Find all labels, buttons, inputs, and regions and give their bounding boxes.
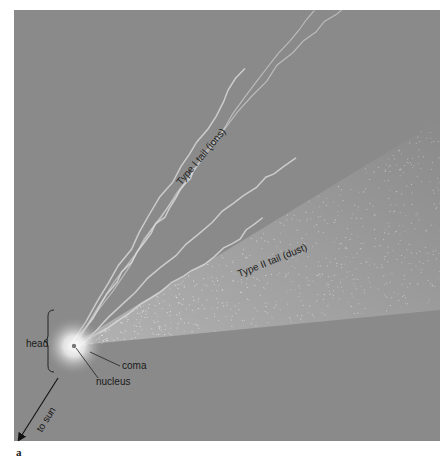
dust-speck — [363, 243, 364, 244]
dust-speck — [257, 311, 258, 312]
dust-speck — [411, 164, 412, 165]
dust-speck — [353, 297, 354, 298]
dust-speck — [355, 268, 356, 269]
dust-speck — [340, 282, 341, 283]
dust-speck — [401, 194, 402, 195]
dust-speck — [299, 293, 300, 294]
dust-speck — [390, 165, 391, 166]
dust-speck — [125, 330, 126, 331]
dust-speck — [346, 276, 347, 277]
dust-speck — [435, 208, 436, 209]
dust-speck — [318, 275, 319, 276]
dust-speck — [352, 214, 353, 215]
dust-speck — [324, 219, 325, 220]
dust-speck — [385, 256, 386, 257]
dust-speck — [318, 231, 319, 232]
dust-speck — [437, 178, 438, 179]
dust-speck — [226, 302, 227, 303]
dust-speck — [254, 307, 255, 308]
dust-speck — [212, 290, 213, 291]
dust-speck — [134, 331, 135, 332]
dust-speck — [351, 306, 352, 307]
dust-speck — [384, 259, 385, 260]
dust-speck — [261, 238, 262, 239]
dust-speck — [407, 159, 408, 160]
dust-speck — [170, 328, 171, 329]
dust-speck — [214, 316, 215, 317]
dust-speck — [318, 274, 319, 275]
dust-speck — [263, 287, 264, 288]
dust-speck — [127, 321, 128, 322]
dust-speck — [388, 180, 389, 181]
dust-speck — [314, 226, 315, 227]
dust-speck — [393, 211, 394, 212]
dust-speck — [328, 276, 329, 277]
dust-speck — [184, 285, 185, 286]
dust-speck — [347, 228, 348, 229]
dust-speck — [414, 228, 415, 229]
dust-speck — [417, 137, 418, 138]
dust-speck — [396, 191, 397, 192]
dust-speck — [257, 278, 258, 279]
dust-speck — [351, 218, 352, 219]
dust-speck — [222, 276, 223, 277]
dust-speck — [326, 258, 327, 259]
dust-speck — [154, 322, 155, 323]
dust-speck — [323, 299, 324, 300]
dust-speck — [176, 314, 177, 315]
dust-speck — [218, 302, 219, 303]
dust-speck — [385, 171, 386, 172]
dust-speck — [409, 244, 410, 245]
comet-photo: Type I tail (ions) Type II tail (dust) h… — [14, 10, 440, 441]
dust-speck — [358, 207, 359, 208]
dust-speck — [143, 306, 144, 307]
dust-speck — [421, 272, 422, 273]
dust-speck — [174, 285, 175, 286]
dust-speck — [275, 221, 276, 222]
dust-speck — [161, 330, 162, 331]
dust-speck — [336, 265, 337, 266]
dust-speck — [287, 215, 288, 216]
dust-speck — [326, 283, 327, 284]
dust-speck — [159, 303, 160, 304]
dust-speck — [344, 264, 345, 265]
dust-speck — [295, 268, 296, 269]
dust-speck — [106, 338, 107, 339]
dust-speck — [247, 299, 248, 300]
dust-speck — [162, 301, 163, 302]
dust-speck — [391, 297, 392, 298]
dust-speck — [137, 313, 138, 314]
dust-speck — [300, 220, 301, 221]
dust-speck — [271, 274, 272, 275]
dust-speck — [263, 233, 264, 234]
dust-speck — [178, 288, 179, 289]
dust-speck — [157, 316, 158, 317]
dust-speck — [157, 301, 158, 302]
dust-speck — [338, 205, 339, 206]
dust-speck — [402, 226, 403, 227]
dust-speck — [148, 308, 149, 309]
dust-speck — [178, 323, 179, 324]
dust-speck — [184, 331, 185, 332]
dust-speck — [236, 313, 237, 314]
dust-speck — [286, 274, 287, 275]
dust-speck — [237, 281, 238, 282]
dust-speck — [406, 249, 407, 250]
dust-speck — [394, 211, 395, 212]
dust-speck — [363, 192, 364, 193]
dust-speck — [430, 132, 431, 133]
dust-speck — [338, 287, 339, 288]
dust-speck — [399, 150, 400, 151]
dust-speck — [361, 243, 362, 244]
dust-speck — [312, 314, 313, 315]
dust-speck — [396, 164, 397, 165]
coma-label: coma — [122, 360, 146, 371]
dust-speck — [284, 225, 285, 226]
dust-speck — [428, 260, 429, 261]
dust-speck — [318, 196, 319, 197]
dust-speck — [432, 162, 433, 163]
dust-speck — [168, 332, 169, 333]
dust-speck — [105, 339, 106, 340]
dust-speck — [343, 200, 344, 201]
dust-speck — [140, 306, 141, 307]
